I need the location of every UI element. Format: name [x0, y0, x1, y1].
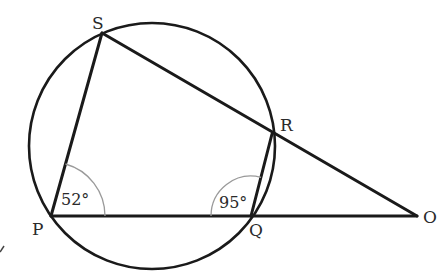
point-label-Q: Q	[249, 220, 263, 240]
point-label-S: S	[92, 13, 104, 33]
point-label-P: P	[32, 219, 43, 239]
scan-artifact-mark	[0, 246, 4, 252]
angle-label-Q: 95°	[219, 193, 247, 212]
geometry-diagram: 52° 95° S R P Q O	[0, 0, 439, 272]
segment-PS	[51, 33, 102, 216]
point-label-R: R	[280, 115, 294, 135]
angle-label-P: 52°	[61, 190, 89, 209]
point-label-O: O	[423, 207, 437, 227]
circle	[29, 23, 275, 269]
